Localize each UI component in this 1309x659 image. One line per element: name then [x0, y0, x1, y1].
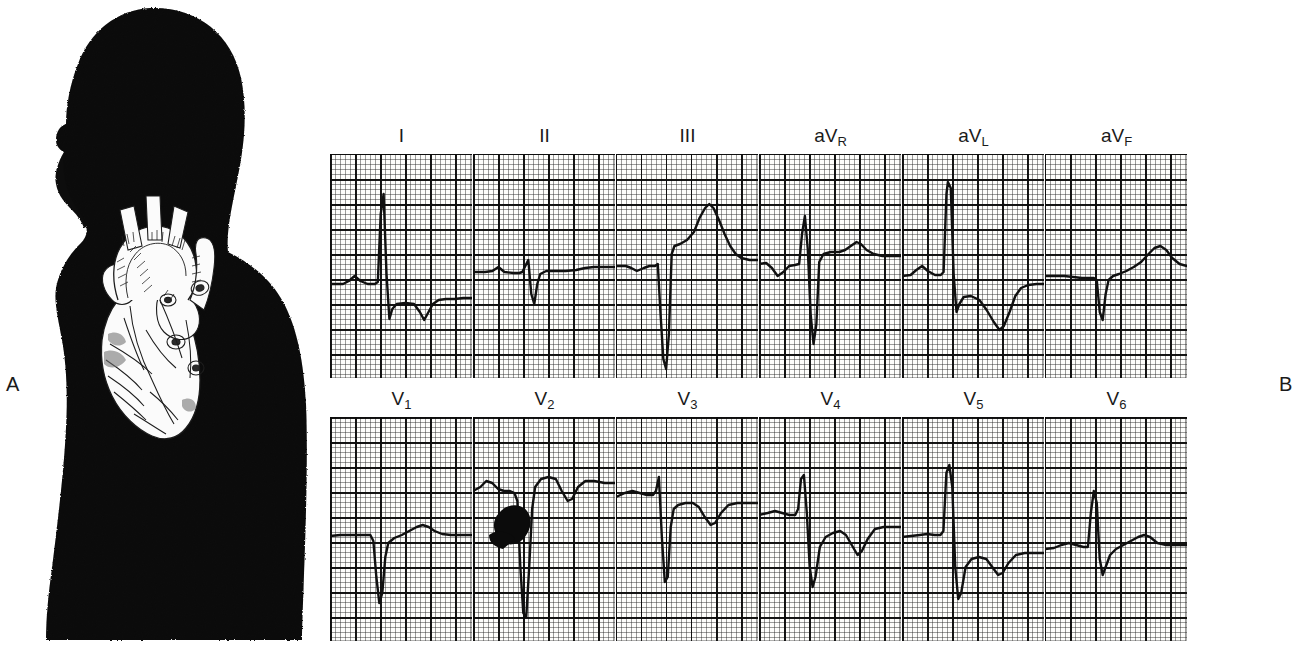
lead-avl: aVL [902, 122, 1045, 378]
lead-avl-strip [902, 154, 1044, 378]
lead-avf: aVF [1045, 122, 1188, 378]
ecg-trace [330, 417, 472, 641]
lead-v4-strip [759, 417, 901, 641]
lead-v3-strip [616, 417, 758, 641]
lead-v2-label: V2 [473, 385, 616, 417]
lead-v6-label: V6 [1045, 385, 1188, 417]
ecg-trace [902, 154, 1044, 378]
ecg-trace [759, 417, 901, 641]
ecg-trace [330, 154, 472, 378]
ink-blot-artifact [473, 417, 615, 641]
ecg-trace [616, 154, 758, 378]
ecg-trace [759, 154, 901, 378]
left-common-carotid [146, 196, 162, 240]
lead-v3-label: V3 [616, 385, 759, 417]
panel-a-silhouette: A [0, 0, 330, 659]
lead-v5: V5 [902, 385, 1045, 641]
lead-iii: III [616, 122, 759, 378]
lead-iii-strip [616, 154, 758, 378]
lead-v5-strip [902, 417, 1044, 641]
lead-ii: II [473, 122, 616, 378]
lead-v4-label: V4 [759, 385, 902, 417]
lead-i-strip [330, 154, 472, 378]
lead-avl-label: aVL [902, 122, 1045, 154]
lead-i: I [330, 122, 473, 378]
human-silhouette [0, 0, 330, 659]
lead-v2: V2 [473, 385, 616, 641]
lead-v1-label: V1 [330, 385, 473, 417]
lead-avf-strip [1045, 154, 1187, 378]
lead-v2-strip [473, 417, 615, 641]
ecg-trace [902, 417, 1044, 641]
lead-v6-strip [1045, 417, 1187, 641]
ecg-figure: A [0, 0, 1309, 659]
lead-v5-label: V5 [902, 385, 1045, 417]
lead-v6: V6 [1045, 385, 1188, 641]
lead-v4: V4 [759, 385, 902, 641]
ecg-trace [1045, 417, 1187, 641]
lead-v1: V1 [330, 385, 473, 641]
ecg-trace [616, 417, 758, 641]
lead-iii-label: III [616, 122, 759, 154]
lead-avr: aVR [759, 122, 902, 378]
lead-v3: V3 [616, 385, 759, 641]
silhouette-svg [0, 0, 330, 659]
lead-i-label: I [330, 122, 473, 154]
ecg-trace [473, 154, 615, 378]
lead-avf-label: aVF [1045, 122, 1188, 154]
lead-v1-strip [330, 417, 472, 641]
lead-ii-label: II [473, 122, 616, 154]
panel-b-ecg: IIIIIIaVRaVLaVF V1V2V3V4V5V6 [330, 0, 1309, 659]
lead-ii-strip [473, 154, 615, 378]
lead-avr-strip [759, 154, 901, 378]
panel-b-label: B [1279, 373, 1292, 396]
ecg-trace [1045, 154, 1187, 378]
lead-avr-label: aVR [759, 122, 902, 154]
